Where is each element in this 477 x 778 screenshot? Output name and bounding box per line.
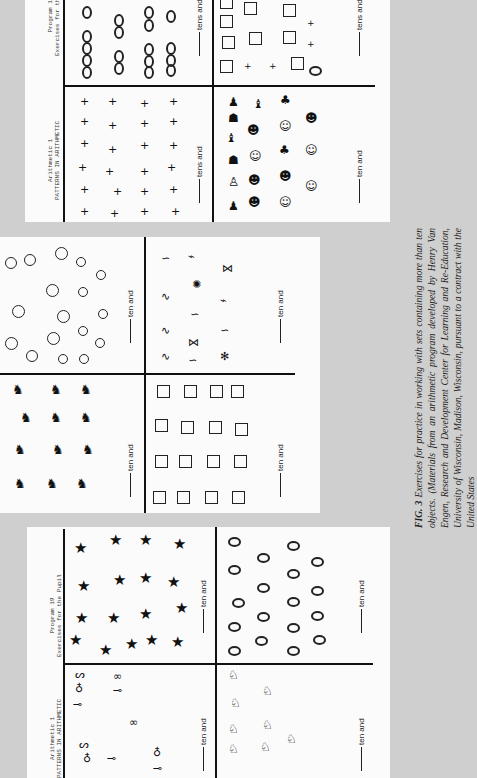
blank-label: ten and (357, 718, 366, 745)
divider (144, 237, 146, 513)
figure-caption: FIG. 3 Exercises for practice in working… (412, 228, 477, 528)
worksheet-header-left: Arithmetic 1 PATTERNS IN ARITHMETIC (49, 699, 63, 778)
header-title: PATTERNS IN ARITHMETIC (54, 121, 61, 200)
divider (212, 0, 214, 222)
divider (63, 0, 65, 222)
caption-text: Exercises for practice in working with s… (413, 228, 476, 528)
worksheet-middle: ten and ∽∿∿∿ ⌁✺∽⋈∽ ⋈⌁∽✻ ten and ♞♞♞ ♞♞♞ … (0, 237, 320, 513)
answer-blank[interactable]: tens and (195, 146, 204, 205)
header-course: Arithmetic 1 (49, 699, 56, 778)
worksheet-header-right: Program 19 Exercises for the Pupil (47, 0, 61, 56)
header-course: Arithmetic 1 (47, 121, 54, 200)
header-exercises: Exercises for the Pupil (56, 574, 63, 657)
header-program: Program 19 (47, 0, 54, 56)
answer-blank[interactable]: ten and (276, 290, 285, 345)
quadrant-creatures: ♟☗♝☗♙♟ ♝☻☺☻☻ ♣☺♣☻☺ ☻☺☺ (225, 92, 345, 217)
quadrant-plus-signs: ++++ ++++ ++++ ++++ ++++ ++++ (75, 92, 205, 217)
answer-blank[interactable]: ten and (357, 580, 366, 635)
quadrant-balloons: ᔕ♁⊸ᔕ♁ ∞⊸∞⊸ ♁⊸ (69, 667, 209, 778)
answer-blank[interactable]: ten and (126, 444, 135, 499)
blank-label: ten and (276, 444, 285, 471)
answer-blank[interactable]: ten and (126, 290, 135, 345)
divider (63, 663, 373, 665)
blank-label: ten and (199, 718, 208, 745)
blank-label: ten and (126, 444, 135, 471)
blank-label: tens and (355, 0, 364, 30)
worksheet-top: Program 19 Exercises for the Pupil Arith… (25, 0, 390, 222)
answer-blank[interactable]: ten and (199, 718, 208, 773)
answer-blank[interactable]: ten and (357, 718, 366, 773)
blank-label: ten and (126, 290, 135, 317)
blank-label: tens and (195, 146, 204, 177)
blank-label: ten and (199, 580, 208, 607)
answer-blank[interactable]: ten and (355, 150, 364, 205)
worksheet-header-left: Arithmetic 1 PATTERNS IN ARITHMETIC (47, 121, 61, 200)
divider (0, 373, 295, 375)
header-program: Program 19 (49, 574, 56, 657)
quadrant-stars: ★★★★ ★★★★ ★★★★ ★★★★★ (67, 527, 212, 662)
blank-label: tens and (195, 0, 204, 30)
worksheet-header-right: Program 19 Exercises for the Pupil (49, 574, 63, 657)
answer-blank[interactable]: tens and (195, 0, 204, 58)
answer-blank[interactable]: ten and (199, 580, 208, 635)
caption-label: FIG. 3 (413, 501, 424, 528)
header-exercises: Exercises for the Pupil (54, 0, 61, 56)
blank-label: ten and (276, 290, 285, 317)
divider (63, 85, 375, 87)
divider (63, 529, 65, 778)
quadrant-fish-worms: ∽∿∿∿ ⌁✺∽⋈∽ ⋈⌁∽✻ (158, 251, 258, 366)
blank-label: ten and (355, 150, 364, 177)
blank-label: ten and (357, 580, 366, 607)
answer-blank[interactable]: ten and (276, 444, 285, 499)
header-title: PATTERNS IN ARITHMETIC (56, 699, 63, 778)
worksheet-bottom: Program 19 Exercises for the Pupil Arith… (27, 527, 390, 778)
divider (215, 527, 217, 778)
quadrant-birds: ♘♘♘♘ ♘♘♘ ♘ (222, 667, 342, 778)
quadrant-dogs: ♞♞♞ ♞♞♞ ♞♞♞ ♞♞♞ (8, 381, 108, 506)
answer-blank[interactable]: tens and (355, 0, 364, 58)
